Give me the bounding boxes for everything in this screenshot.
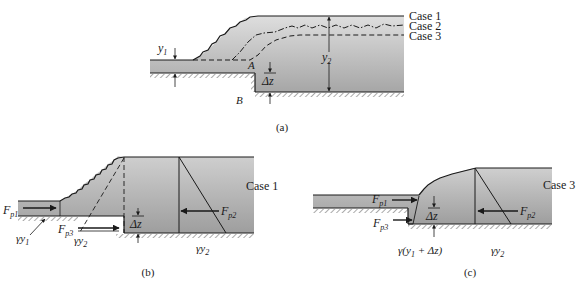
- panel-c: Fp1 Fp3 Δz Fp2 γ(y1 + Δz) γy2 Case 3 (c): [313, 168, 575, 279]
- y1-label: y1: [157, 41, 167, 57]
- dz-label-a: Δz: [261, 74, 274, 88]
- point-b-label: B: [236, 94, 243, 106]
- panel-b: Fp1 γy1 Fp3 γy2 Δz Fp2 γy2 Case 1 (b): [2, 156, 278, 279]
- caption-a: (a): [276, 121, 289, 134]
- point-a-label: A: [247, 59, 255, 71]
- gy1-dz-label: γ(y1 + Δz): [398, 244, 443, 259]
- gy2-left-label-b: γy2: [74, 234, 87, 249]
- fp3-label-c: Fp3: [372, 216, 388, 232]
- gy1-label: γy1: [16, 232, 29, 247]
- fp3-label-b: Fp3: [57, 222, 73, 238]
- panel-a: y1 y2 Δz A B Case 1 Case 2 Case 3 (a): [150, 9, 441, 134]
- case-label-b: Case 1: [246, 179, 278, 193]
- dz-label-c: Δz: [425, 209, 438, 223]
- water-region-a: [150, 16, 404, 92]
- dz-label-b: Δz: [129, 217, 142, 231]
- case-label-c: Case 3: [543, 178, 575, 192]
- case3-label: Case 3: [409, 29, 441, 43]
- caption-b: (b): [142, 266, 155, 279]
- gy2-label-c: γy2: [491, 244, 504, 259]
- hydraulic-jump-diagram: y1 y2 Δz A B Case 1 Case 2 Case 3 (a): [0, 0, 584, 289]
- fp1-label-b: Fp1: [2, 203, 18, 219]
- caption-c: (c): [464, 266, 477, 279]
- gy2-right-label-b: γy2: [196, 242, 209, 257]
